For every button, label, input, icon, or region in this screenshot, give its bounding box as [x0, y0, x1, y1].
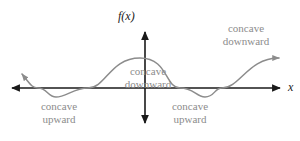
annotation-concave-upward-left: concave upward	[26, 100, 92, 125]
annotation-line-1: concave	[204, 22, 288, 35]
concavity-figure: f(x) x concave upward concave downward c…	[0, 0, 300, 141]
annotation-concave-downward-right: concave downward	[204, 22, 288, 47]
annotation-concave-upward-right: concave upward	[157, 100, 223, 125]
annotation-line-2: downward	[108, 78, 188, 91]
annotation-line-2: upward	[157, 113, 223, 126]
x-axis-label: x	[288, 80, 293, 95]
annotation-concave-downward-center: concave downward	[108, 65, 188, 90]
y-axis-label: f(x)	[118, 9, 135, 24]
annotation-line-1: concave	[26, 100, 92, 113]
annotation-line-2: downward	[204, 35, 288, 48]
annotation-line-1: concave	[157, 100, 223, 113]
annotation-line-2: upward	[26, 113, 92, 126]
annotation-line-1: concave	[108, 65, 188, 78]
